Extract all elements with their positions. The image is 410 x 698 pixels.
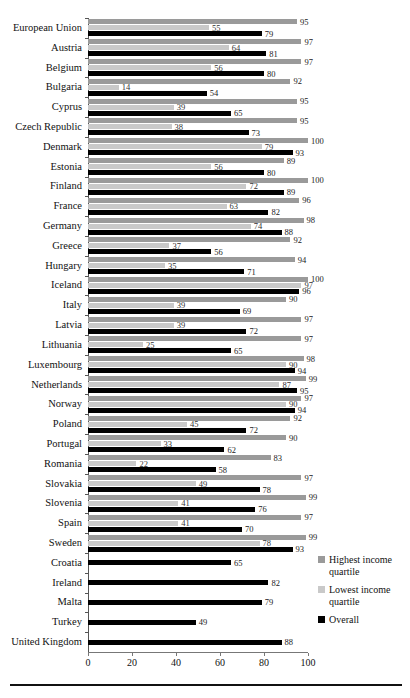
bar-highest: 94 bbox=[88, 257, 295, 262]
category-label: Norway bbox=[48, 399, 82, 410]
row-bars: 943571 bbox=[88, 256, 308, 276]
bar-highest: 97 bbox=[88, 396, 301, 401]
bar-fill bbox=[88, 91, 207, 96]
row-bars: 966382 bbox=[88, 196, 308, 216]
x-tick-line bbox=[220, 653, 221, 656]
bar-fill bbox=[88, 257, 295, 262]
bar-fill bbox=[88, 515, 301, 520]
category-label: Belgium bbox=[46, 62, 82, 73]
chart-row: Hungary943571 bbox=[88, 256, 308, 276]
x-tick-label: 20 bbox=[127, 658, 137, 668]
bar-lowest: 90 bbox=[88, 402, 286, 407]
bar-fill bbox=[88, 356, 304, 361]
category-label: United Kingdom bbox=[11, 637, 82, 648]
category-label: Slovakia bbox=[45, 478, 82, 489]
bar-overall: 72 bbox=[88, 329, 246, 334]
bar-fill bbox=[88, 79, 290, 84]
bar-fill bbox=[88, 323, 174, 328]
bar-fill bbox=[88, 243, 169, 248]
bar-value-label: 95 bbox=[300, 18, 309, 27]
legend-item[interactable]: Overall bbox=[318, 614, 410, 626]
bar-value-label: 95 bbox=[300, 97, 309, 106]
chart-row: United Kingdom88 bbox=[88, 632, 308, 652]
category-label: Italy bbox=[63, 300, 82, 311]
bar-highest: 100 bbox=[88, 138, 308, 143]
category-label: Netherlands bbox=[31, 379, 82, 390]
chart-row: Estonia895680 bbox=[88, 157, 308, 177]
row-bars: 989094 bbox=[88, 355, 308, 375]
category-label: Greece bbox=[52, 241, 82, 252]
bar-fill bbox=[88, 224, 251, 229]
bar-value-label: 79 bbox=[265, 598, 274, 607]
row-bars: 832258 bbox=[88, 454, 308, 474]
category-label: Luxembourg bbox=[28, 359, 82, 370]
x-tick-line bbox=[264, 653, 265, 656]
bar-overall: 88 bbox=[88, 230, 282, 235]
row-bars: 903362 bbox=[88, 434, 308, 454]
bar-lowest: 33 bbox=[88, 441, 161, 446]
bar-fill bbox=[88, 105, 174, 110]
bar-value-label: 99 bbox=[309, 533, 318, 542]
row-bars: 987488 bbox=[88, 216, 308, 236]
bar-fill bbox=[88, 336, 301, 341]
bar-fill bbox=[88, 428, 246, 433]
bar-value-label: 92 bbox=[293, 236, 302, 245]
bar-fill bbox=[88, 455, 271, 460]
bar-fill bbox=[88, 461, 136, 466]
bar-fill bbox=[88, 368, 295, 373]
bar-overall: 79 bbox=[88, 600, 262, 605]
bar-value-label: 94 bbox=[298, 255, 307, 264]
category-label: Spain bbox=[58, 518, 82, 529]
bar-fill bbox=[88, 289, 299, 294]
bar-overall: 71 bbox=[88, 269, 244, 274]
bar-highest: 83 bbox=[88, 455, 271, 460]
bar-fill bbox=[88, 640, 282, 645]
bar-fill bbox=[88, 441, 161, 446]
category-label: Portugal bbox=[46, 439, 82, 450]
bar-lowest: 78 bbox=[88, 541, 260, 546]
bar-overall: 94 bbox=[88, 368, 295, 373]
row-bars: 998795 bbox=[88, 375, 308, 395]
chart-row: Croatia65 bbox=[88, 553, 308, 573]
bar-overall: 79 bbox=[88, 31, 262, 36]
bar-highest: 90 bbox=[88, 435, 286, 440]
bar-fill bbox=[88, 348, 231, 353]
bar-highest: 96 bbox=[88, 198, 299, 203]
bar-fill bbox=[88, 317, 301, 322]
chart-row: Romania832258 bbox=[88, 454, 308, 474]
bar-fill bbox=[88, 45, 229, 50]
bar-overall: 65 bbox=[88, 560, 231, 565]
bar-overall: 73 bbox=[88, 130, 249, 135]
bar-fill bbox=[88, 481, 196, 486]
bar-lowest: 37 bbox=[88, 243, 169, 248]
bar-lowest: 22 bbox=[88, 461, 136, 466]
bar-overall: 88 bbox=[88, 640, 282, 645]
bar-lowest: 63 bbox=[88, 204, 227, 209]
bar-fill bbox=[88, 19, 297, 24]
row-bars: 1007289 bbox=[88, 177, 308, 197]
x-tick-label: 40 bbox=[171, 658, 181, 668]
x-tick-line bbox=[308, 653, 309, 656]
bar-fill bbox=[88, 158, 284, 163]
bar-value-label: 88 bbox=[285, 638, 294, 647]
legend-item[interactable]: Highest income quartile bbox=[318, 554, 410, 577]
chart-row: Malta79 bbox=[88, 593, 308, 613]
chart-row: Lithuania972565 bbox=[88, 335, 308, 355]
legend-swatch-icon bbox=[318, 556, 325, 563]
category-label: Iceland bbox=[51, 280, 82, 291]
bar-value-label: 92 bbox=[293, 414, 302, 423]
bar-value-label: 96 bbox=[302, 196, 311, 205]
x-tick-label: 0 bbox=[86, 658, 91, 668]
category-label: Sweden bbox=[49, 538, 82, 549]
bar-fill bbox=[88, 85, 119, 90]
bar-fill bbox=[88, 190, 284, 195]
row-bars: 975680 bbox=[88, 58, 308, 78]
chart-row: Norway979094 bbox=[88, 394, 308, 414]
chart-row: Luxembourg989094 bbox=[88, 355, 308, 375]
bar-fill bbox=[88, 527, 242, 532]
chart-row: Austria976481 bbox=[88, 38, 308, 58]
legend-item[interactable]: Lowest income quartile bbox=[318, 584, 410, 607]
x-tick-label: 100 bbox=[301, 658, 316, 668]
bar-value-label: 97 bbox=[304, 315, 313, 324]
bar-fill bbox=[88, 269, 244, 274]
